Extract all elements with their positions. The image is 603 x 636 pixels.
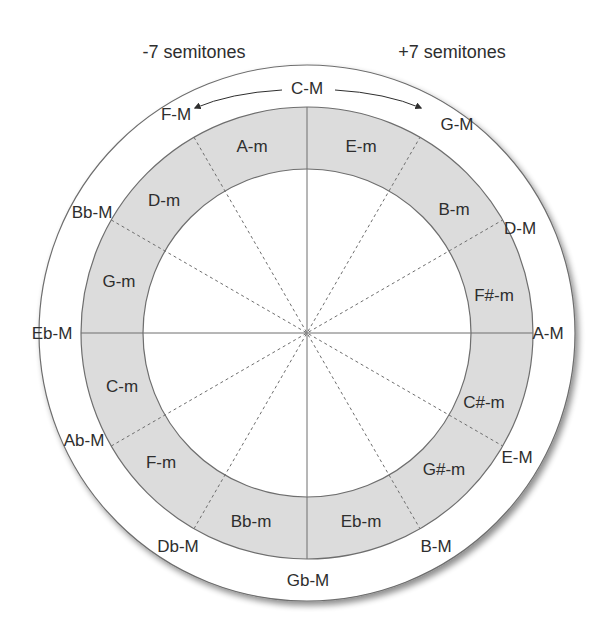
minor-key-label: F#-m <box>474 286 514 305</box>
minor-key-label: C-m <box>106 377 138 396</box>
major-key-label: Db-M <box>157 537 199 556</box>
circle-of-fifths-diagram: -7 semitones +7 semitones C-MG-MD-MA-ME-… <box>0 0 603 636</box>
minus-seven-label: -7 semitones <box>142 42 245 62</box>
major-key-label: D-M <box>504 219 536 238</box>
minor-key-label: Bb-m <box>231 512 272 531</box>
major-key-label: B-M <box>420 537 451 556</box>
minor-key-label: D-m <box>148 191 180 210</box>
minor-key-label: E-m <box>345 137 376 156</box>
minor-key-label: A-m <box>236 137 267 156</box>
major-key-label: Ab-M <box>64 431 105 450</box>
major-key-label: F-M <box>161 105 191 124</box>
plus-seven-label: +7 semitones <box>398 42 506 62</box>
major-key-label: E-M <box>501 448 532 467</box>
minor-key-label: C#-m <box>463 393 505 412</box>
major-key-label: Eb-M <box>32 324 73 343</box>
minor-key-label: Eb-m <box>341 512 382 531</box>
major-key-label: C-M <box>291 79 323 98</box>
major-key-label: G-M <box>440 115 473 134</box>
minor-key-label: F-m <box>146 453 176 472</box>
minor-key-label: G-m <box>102 272 135 291</box>
minor-key-label: G#-m <box>423 460 466 479</box>
minor-key-label: B-m <box>438 200 469 219</box>
major-key-label: A-M <box>532 324 563 343</box>
major-key-label: Gb-M <box>287 571 330 590</box>
major-key-label: Bb-M <box>72 203 113 222</box>
